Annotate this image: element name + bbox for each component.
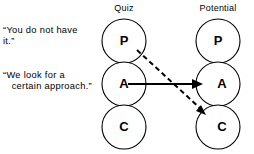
- node-label-potential-a: A: [217, 76, 227, 91]
- annotation-line-1: “We look for a: [3, 70, 65, 80]
- diagram-canvas: Quiz Potential P A C P A C: [0, 0, 254, 154]
- node-label-potential-c: C: [217, 119, 227, 134]
- node-group-quiz-p: P: [102, 19, 146, 63]
- node-label-quiz-c: C: [119, 119, 129, 134]
- annotation-line-2: certain approach.”: [3, 81, 92, 91]
- node-label-quiz-a: A: [119, 76, 129, 91]
- node-label-quiz-p: P: [120, 33, 129, 48]
- annotation-you-do-not-have-it: “You do not have it.”: [3, 25, 78, 46]
- annotation-line-1: “You do not have: [3, 25, 78, 35]
- concept-mapping-diagram: Quiz Potential P A C P A C: [0, 0, 254, 154]
- node-group-potential-p: P: [196, 19, 240, 63]
- node-group-quiz-c: C: [102, 105, 146, 149]
- column-header-quiz: Quiz: [114, 3, 134, 13]
- node-label-potential-p: P: [214, 33, 223, 48]
- column-header-potential: Potential: [200, 3, 237, 13]
- annotation-we-look-for-a-certain-approach: “We look for a certain approach.”: [3, 70, 92, 91]
- annotation-line-2: it.”: [3, 36, 15, 46]
